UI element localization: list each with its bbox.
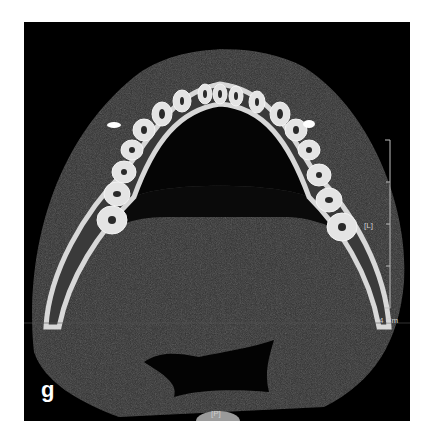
metal-artifact-left — [303, 120, 315, 128]
axial-mandible-ct — [24, 22, 410, 421]
metal-artifact-right — [107, 122, 121, 128]
ct-scan-image: [L] 4 Cm [P] g — [24, 22, 410, 421]
orientation-left-label: [L] — [364, 222, 373, 230]
scale-label: 4 Cm — [379, 317, 398, 325]
panel-letter: g — [41, 379, 54, 401]
orientation-posterior-label: [P] — [211, 410, 221, 418]
